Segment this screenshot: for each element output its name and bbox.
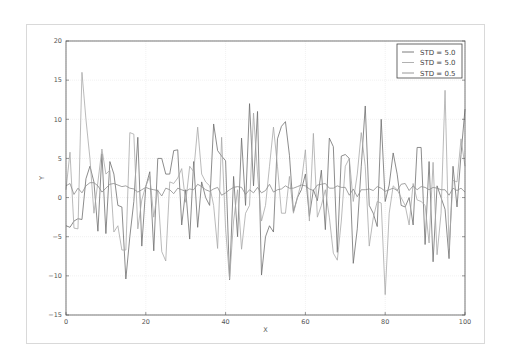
x-tick-label: 80 (381, 318, 389, 326)
y-tick-label: 5 (58, 155, 62, 163)
y-tick-label: 20 (54, 37, 62, 45)
legend-label: STD = 5.0 (420, 59, 456, 67)
x-axis-ticks: 020406080100 (64, 312, 471, 326)
y-tick-label: −15 (48, 311, 62, 319)
y-tick-label: −10 (48, 272, 62, 280)
x-tick-label: 60 (301, 318, 309, 326)
legend: STD = 5.0STD = 5.0STD = 0.5 (397, 44, 462, 78)
x-axis-title: X (263, 326, 268, 334)
x-tick-label: 0 (64, 318, 68, 326)
y-tick-label: 15 (54, 76, 62, 84)
line-chart: 020406080100 −15−10−505101520 X Y STD = … (0, 0, 510, 362)
x-tick-label: 100 (459, 318, 471, 326)
y-axis-title: Y (38, 176, 46, 181)
series-line-1 (66, 104, 465, 280)
x-tick-label: 40 (221, 318, 229, 326)
series-lines (66, 72, 465, 294)
legend-label: STD = 5.0 (420, 49, 456, 57)
y-tick-label: −5 (52, 233, 62, 241)
x-tick-label: 20 (142, 318, 150, 326)
y-tick-label: 10 (54, 116, 62, 124)
y-tick-label: 0 (58, 194, 62, 202)
legend-label: STD = 0.5 (420, 70, 456, 78)
series-line-3 (66, 183, 465, 197)
